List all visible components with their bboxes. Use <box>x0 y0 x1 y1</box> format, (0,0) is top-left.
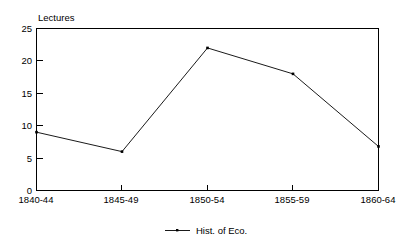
series-line-hist-of-eco <box>37 48 379 152</box>
legend-label-hist-of-eco: Hist. of Eco. <box>196 225 247 236</box>
x-axis-ticks <box>122 185 293 191</box>
legend-swatch-marker <box>176 229 178 231</box>
data-point-1860-64 <box>377 145 380 148</box>
line-chart: Lectures 0 5 10 15 20 25 1840-44 <box>0 0 411 245</box>
data-point-1855-59 <box>292 73 295 76</box>
series-markers <box>35 47 380 153</box>
x-tick-label-1850-54: 1850-54 <box>190 194 225 205</box>
x-tick-label-1840-44: 1840-44 <box>19 194 54 205</box>
x-tick-label-1845-49: 1845-49 <box>104 194 139 205</box>
chart-legend: Hist. of Eco. <box>165 225 247 236</box>
data-point-1850-54 <box>206 47 209 50</box>
y-tick-label-10: 10 <box>21 120 32 131</box>
x-tick-label-1855-59: 1855-59 <box>275 194 310 205</box>
data-point-1840-44 <box>35 131 38 134</box>
y-tick-label-25: 25 <box>21 23 32 34</box>
y-tick-label-15: 15 <box>21 88 32 99</box>
y-tick-label-5: 5 <box>27 153 32 164</box>
x-tick-label-1860-64: 1860-64 <box>361 194 396 205</box>
plot-frame <box>37 29 379 191</box>
y-axis-labels: 0 5 10 15 20 25 <box>21 23 32 196</box>
chart-container: Lectures 0 5 10 15 20 25 1840-44 <box>0 0 411 245</box>
y-axis-title: Lectures <box>38 12 75 23</box>
y-tick-label-20: 20 <box>21 55 32 66</box>
x-axis-labels: 1840-44 1845-49 1850-54 1855-59 1860-64 <box>19 194 396 205</box>
y-axis-ticks <box>37 29 43 191</box>
data-point-1845-49 <box>121 150 124 153</box>
